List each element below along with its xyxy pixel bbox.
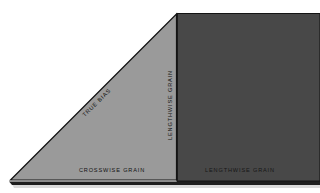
lengthwise-grain-vertical-label: LENGTHWISE GRAIN [167, 70, 173, 140]
figure-canvas: TRUE BIAS LENGTHWISE GRAIN CROSSWISE GRA… [0, 0, 320, 193]
crosswise-grain-label: CROSSWISE GRAIN [79, 167, 145, 173]
fabric-grain-diagram: TRUE BIAS LENGTHWISE GRAIN CROSSWISE GRA… [0, 0, 320, 193]
lengthwise-grain-vertical-label-group: LENGTHWISE GRAIN [167, 70, 173, 140]
lengthwise-panel [177, 14, 320, 182]
lengthwise-grain-bottom-label: LENGTHWISE GRAIN [205, 167, 275, 173]
